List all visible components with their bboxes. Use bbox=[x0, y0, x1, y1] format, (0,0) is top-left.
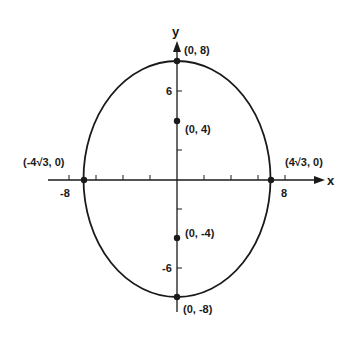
label-focus-top: (0, 4) bbox=[185, 123, 211, 135]
y-tick-label-neg6: -6 bbox=[162, 262, 172, 274]
x-axis-label: x bbox=[327, 173, 335, 188]
ellipse-chart: x y -8 8 6 -6 (0, 8) (0, 4) (0, -4) ( bbox=[0, 0, 357, 338]
label-left-vertex: (-4√3, 0) bbox=[23, 156, 65, 168]
label-top-vertex: (0, 8) bbox=[184, 44, 210, 56]
label-bottom-vertex: (0, -8) bbox=[183, 303, 213, 315]
label-right-vertex: (4√3, 0) bbox=[285, 156, 323, 168]
point-left-vertex bbox=[81, 177, 87, 183]
y-axis-label: y bbox=[172, 24, 180, 39]
x-tick-label-8: 8 bbox=[281, 187, 287, 199]
point-focus-top bbox=[174, 118, 180, 124]
point-bottom-vertex bbox=[174, 294, 180, 300]
x-axis-arrow-icon bbox=[314, 176, 325, 184]
point-focus-bottom bbox=[174, 235, 180, 241]
x-tick-label-neg8: -8 bbox=[60, 187, 70, 199]
y-tick-label-6: 6 bbox=[166, 85, 172, 97]
y-axis-arrow-icon bbox=[173, 41, 181, 52]
point-top-vertex bbox=[174, 58, 180, 64]
point-right-vertex bbox=[268, 177, 274, 183]
label-focus-bottom: (0, -4) bbox=[185, 227, 215, 239]
